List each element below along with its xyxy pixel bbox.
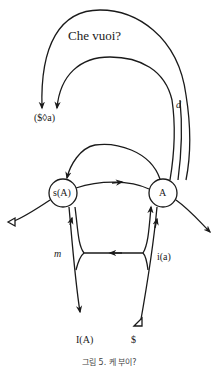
d-line	[178, 100, 181, 180]
right-vector	[176, 200, 210, 232]
return-arc	[67, 144, 160, 179]
left-vector	[12, 200, 50, 222]
image-label: i(a)	[157, 251, 171, 262]
che-vuoi-label: Che vuoi?	[68, 28, 121, 44]
ego-label: m	[54, 248, 61, 259]
figure-caption: 그림 5. 케 부이?	[82, 356, 137, 367]
a-label: A	[159, 187, 166, 198]
fantasy-label: ($◊a)	[34, 112, 55, 123]
desire-label: d	[176, 99, 181, 110]
s-a-label: s(A)	[53, 187, 71, 198]
barred-subject-label: $	[131, 334, 136, 345]
ego-ideal-label: I(A)	[76, 334, 93, 345]
